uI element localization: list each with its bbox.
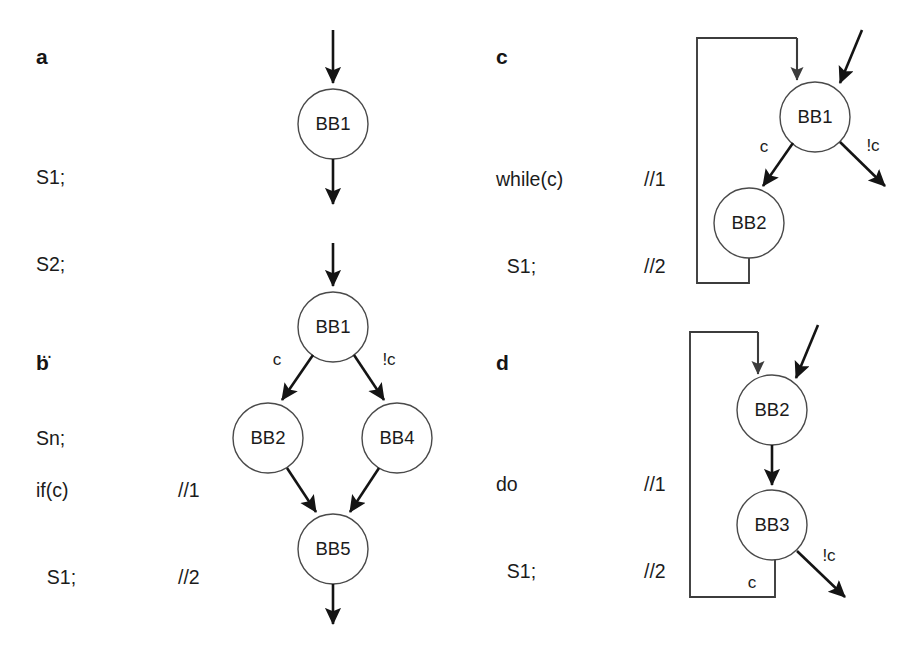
edge-label-not-c: !c: [866, 136, 880, 155]
node-bb2[interactable]: [737, 375, 807, 445]
node-bb1-label: BB1: [316, 316, 351, 337]
edge-label-c: c: [748, 573, 757, 592]
edge-bb1-to-exit: [840, 142, 885, 186]
node-bb1[interactable]: [298, 89, 368, 159]
node-bb5[interactable]: [298, 514, 368, 584]
code-line: S1;: [36, 563, 78, 592]
comment-line: //1: [644, 165, 666, 194]
node-bb1-label: BB1: [316, 113, 351, 134]
code-panel-b: if(c) S1; else S2; endif: [36, 418, 78, 647]
edge-bb1-to-bb2: [282, 355, 313, 400]
edge-bb4-to-bb5: [350, 468, 379, 512]
node-bb2-label: BB2: [755, 399, 790, 420]
node-bb1[interactable]: [780, 82, 850, 152]
comment-line: //2: [644, 252, 666, 281]
code-line: ...: [36, 337, 65, 366]
node-bb1[interactable]: [298, 292, 368, 362]
node-bb5-label: BB5: [316, 538, 351, 559]
edge-label-not-c: !c: [822, 546, 836, 565]
code-line: S2;: [36, 250, 65, 279]
code-line: S1;: [496, 557, 569, 586]
panel-letter-d: d: [496, 352, 509, 373]
comment-line: //1: [644, 470, 666, 499]
node-bb2-label: BB2: [251, 427, 286, 448]
edge-entry-to-bb1: [840, 30, 862, 83]
graph-panel-c: BB1 c !c BB2: [697, 30, 885, 283]
code-line: S1;: [36, 163, 65, 192]
comments-panel-d: //1 //2 //3: [644, 412, 666, 647]
back-edge-rail-bb3-to-bb2: [690, 332, 775, 597]
edge-label-c: c: [760, 137, 769, 156]
edge-bb1-to-bb2: [763, 143, 793, 186]
node-bb3-label: BB3: [755, 514, 790, 535]
comment-line: //2: [178, 563, 200, 592]
panel-letter-a: a: [36, 46, 48, 67]
graph-panel-a: BB1: [298, 30, 368, 204]
comment-line: //1: [178, 476, 200, 505]
code-line: while(c): [496, 165, 563, 194]
comments-panel-c: //1 //2: [644, 107, 666, 310]
comment-line: //2: [644, 557, 666, 586]
node-bb4[interactable]: [362, 403, 432, 473]
node-bb3[interactable]: [737, 490, 807, 560]
edge-label-c: c: [273, 350, 282, 369]
code-panel-c: while(c) S1;: [496, 107, 563, 310]
node-bb1-label: BB1: [798, 106, 833, 127]
code-line: do: [496, 470, 569, 499]
panel-letter-c: c: [496, 46, 508, 67]
node-bb2-label: BB2: [732, 212, 767, 233]
comments-panel-b: //1 //2 //3 //4 //5: [178, 418, 200, 647]
code-line: S1;: [496, 252, 563, 281]
node-bb2[interactable]: [714, 188, 784, 258]
edge-bb1-to-bb4: [354, 355, 384, 400]
back-edge-rail-bb2-to-bb1: [697, 38, 797, 283]
edge-bb2-to-bb5: [287, 468, 316, 512]
node-bb4-label: BB4: [380, 427, 415, 448]
code-panel-d: do S1; while(c);: [496, 412, 569, 647]
node-bb2[interactable]: [233, 403, 303, 473]
graph-panel-d: BB2 BB3 c !c: [690, 325, 845, 597]
edge-bb3-to-exit: [797, 551, 845, 597]
edge-entry-to-bb2: [796, 325, 818, 378]
code-line: if(c): [36, 476, 78, 505]
edge-label-not-c: !c: [382, 350, 396, 369]
graph-panel-b: BB1 c !c BB2 BB4 BB5: [233, 243, 432, 624]
control-flow-graphs: BB1 BB1 c !c BB2 BB4 BB5 BB1 c !c: [0, 0, 918, 647]
